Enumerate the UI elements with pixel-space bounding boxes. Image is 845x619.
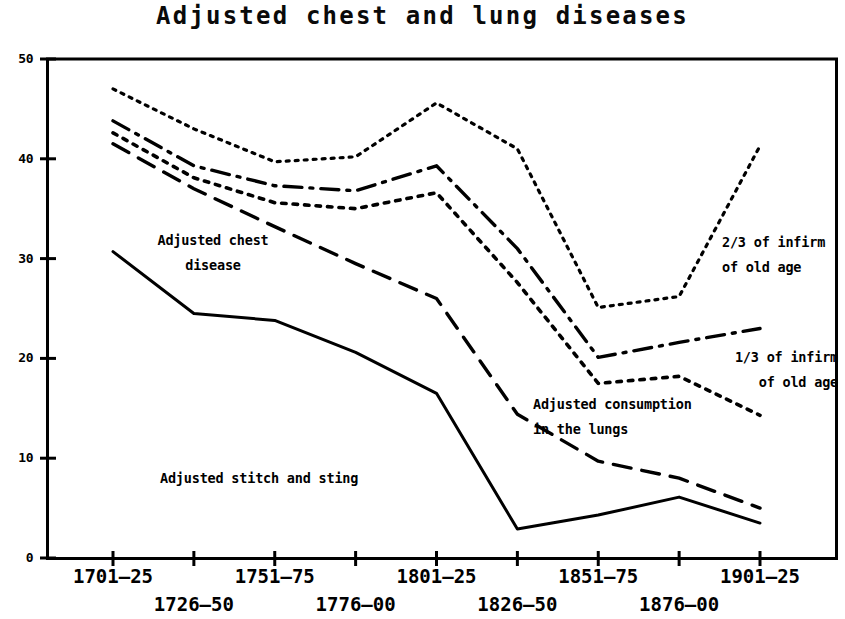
series-annotation-label: Adjusted consumption in the lungs <box>533 392 692 442</box>
x-axis-tick-label: 1851–75 <box>518 565 678 587</box>
x-axis-tick-label: 1701–25 <box>33 565 193 587</box>
x-axis-tick-label: 1876–00 <box>599 593 759 615</box>
x-axis-tick-label: 1826–50 <box>437 593 597 615</box>
series-annotation-label: Adjusted stitch and sting <box>160 466 358 491</box>
y-axis-tick-label: 10 <box>0 450 33 465</box>
y-axis-tick-label: 20 <box>0 350 33 365</box>
series-annotation-label: Adjusted chest disease <box>73 228 353 278</box>
y-axis-tick-label: 0 <box>0 550 33 565</box>
x-axis-tick-label: 1751–75 <box>195 565 355 587</box>
chart-figure: Adjusted chest and lung diseases 0102030… <box>0 0 845 619</box>
series-line-adjusted-chest-disease <box>113 144 760 508</box>
plot-area <box>0 0 845 619</box>
x-axis-tick-label: 1801–25 <box>357 565 517 587</box>
x-axis-tick-label: 1726–50 <box>114 593 274 615</box>
data-series-group <box>113 89 760 529</box>
series-annotation-label: 1/3 of infirm of old age <box>558 345 838 395</box>
x-axis-tick-label: 1901–25 <box>680 565 840 587</box>
x-axis-tick-label: 1776–00 <box>276 593 436 615</box>
y-axis-tick-label: 50 <box>0 51 33 66</box>
y-axis-tick-label: 30 <box>0 251 33 266</box>
series-annotation-label: 2/3 of infirm of old age <box>722 230 825 280</box>
y-axis-tick-label: 40 <box>0 151 33 166</box>
